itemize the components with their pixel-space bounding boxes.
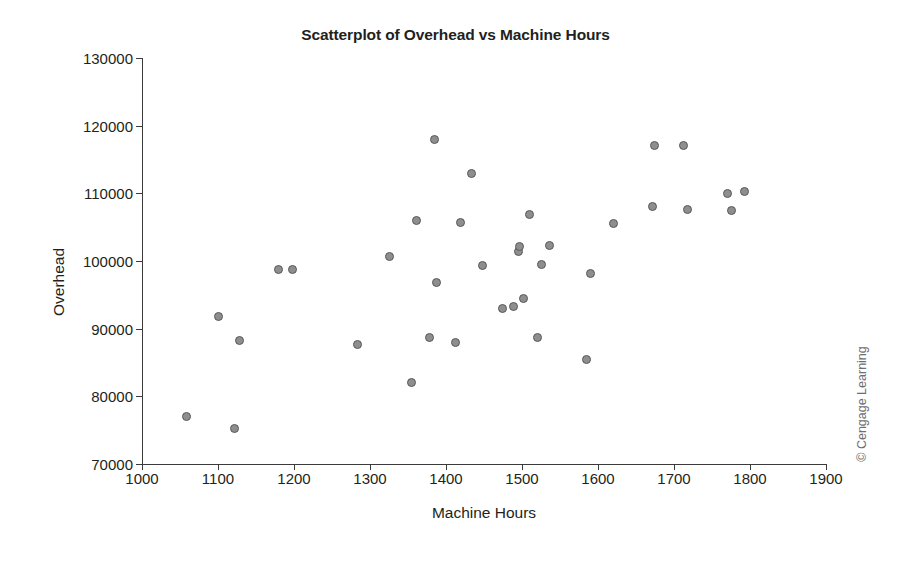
- copyright-credit: © Cengage Learning: [855, 346, 869, 462]
- data-point: [650, 141, 659, 150]
- data-point: [385, 252, 394, 261]
- y-axis-title: Overhead: [50, 248, 68, 316]
- y-axis-tick-label: 130000: [83, 50, 133, 67]
- plot-area: 700008000090000100000110000120000130000 …: [142, 58, 826, 464]
- data-point: [353, 340, 362, 349]
- x-axis-title: Machine Hours: [142, 504, 826, 522]
- data-point: [467, 169, 476, 178]
- data-point: [727, 206, 736, 215]
- data-point: [582, 355, 591, 364]
- data-point: [430, 135, 439, 144]
- data-point: [456, 218, 465, 227]
- data-point: [533, 333, 542, 342]
- data-point: [586, 269, 595, 278]
- y-axis-tick: [136, 58, 142, 59]
- data-point: [679, 141, 688, 150]
- y-axis-tick: [136, 126, 142, 127]
- data-point: [182, 412, 191, 421]
- y-axis-tick: [136, 193, 142, 194]
- x-axis-tick-label: 1400: [429, 470, 462, 487]
- x-axis-tick-label: 1500: [505, 470, 538, 487]
- data-point: [683, 205, 692, 214]
- x-axis-tick-label: 1700: [657, 470, 690, 487]
- scatterplot-figure: Scatterplot of Overhead vs Machine Hours…: [0, 0, 911, 564]
- y-axis-tick: [136, 396, 142, 397]
- data-point: [425, 333, 434, 342]
- x-axis-tick-label: 1100: [202, 470, 234, 487]
- y-axis-tick-label: 90000: [91, 320, 133, 337]
- x-axis-tick-label: 1200: [277, 470, 310, 487]
- x-axis-line: [142, 464, 827, 465]
- data-point: [723, 189, 732, 198]
- data-point: [235, 336, 244, 345]
- data-point: [451, 338, 460, 347]
- y-axis-tick-label: 110000: [84, 185, 133, 202]
- chart-title: Scatterplot of Overhead vs Machine Hours: [0, 26, 911, 44]
- x-axis-tick-label: 1900: [809, 470, 842, 487]
- x-axis-tick-label: 1600: [581, 470, 614, 487]
- data-point: [407, 378, 416, 387]
- y-axis-tick-label: 80000: [91, 388, 133, 405]
- y-axis-tick-label: 120000: [83, 117, 133, 134]
- data-point: [230, 424, 239, 433]
- data-point: [515, 242, 524, 251]
- data-point: [525, 210, 534, 219]
- x-axis-tick-label: 1800: [733, 470, 766, 487]
- data-point: [274, 265, 283, 274]
- data-point: [412, 216, 421, 225]
- y-axis-tick: [136, 261, 142, 262]
- data-point: [478, 261, 487, 270]
- data-point: [648, 202, 657, 211]
- data-point: [432, 278, 441, 287]
- data-point: [537, 260, 546, 269]
- data-point: [519, 294, 528, 303]
- y-axis-tick: [136, 329, 142, 330]
- data-point: [509, 302, 518, 311]
- data-point: [545, 241, 554, 250]
- data-point: [609, 219, 618, 228]
- x-axis-tick-label: 1300: [353, 470, 386, 487]
- data-point: [288, 265, 297, 274]
- x-axis-tick-label: 1000: [125, 470, 158, 487]
- y-axis-tick-label: 100000: [83, 253, 133, 270]
- data-point: [498, 304, 507, 313]
- data-point: [214, 312, 223, 321]
- data-point: [740, 187, 749, 196]
